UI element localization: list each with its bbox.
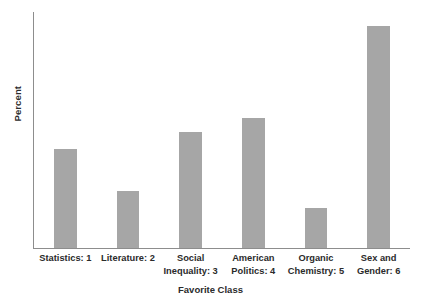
bar-slot-organic-chemistry [305,12,328,248]
bar-slot-literature [117,12,140,248]
x-axis-title: Favorite Class [0,284,421,295]
bar-statistics[interactable] [54,149,77,248]
bar-sex-and-gender[interactable] [367,26,390,248]
bar-slot-social-inequality [179,12,202,248]
bar-slot-sex-and-gender [367,12,390,248]
x-axis-line [33,248,410,249]
y-axis-title: Percent [12,98,23,122]
plot-area [34,12,410,248]
x-tick-label-sex-and-gender: Sex and Gender: 6 [347,252,410,277]
x-tick-label-social-inequality: Social Inequality: 3 [159,252,222,277]
x-axis-tick-labels: Statistics: 1 Literature: 2 Social Inequ… [34,252,410,282]
bar-literature[interactable] [117,191,140,248]
x-tick-label-organic-chemistry: Organic Chemistry: 5 [285,252,348,277]
x-tick-label-literature: Literature: 2 [97,252,160,265]
bar-social-inequality[interactable] [179,132,202,248]
bar-slot-american-politics [242,12,265,248]
bar-organic-chemistry[interactable] [305,208,328,248]
bar-slot-statistics [54,12,77,248]
x-tick-label-statistics: Statistics: 1 [34,252,97,265]
x-tick-label-american-politics: American Politics: 4 [222,252,285,277]
bar-chart-figure: Percent Statistics: 1 Literature: 2 Soci… [0,0,421,306]
bar-american-politics[interactable] [242,118,265,248]
